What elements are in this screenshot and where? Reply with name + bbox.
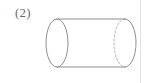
cylinder-far-face-visible-arc [125, 19, 136, 67]
cylinder-diagram [0, 0, 145, 83]
cylinder-far-face-hidden-arc [114, 19, 125, 67]
page-edge-line [140, 0, 141, 83]
cylinder-near-face-ellipse [46, 19, 68, 67]
figure-canvas: (2) [0, 0, 145, 83]
